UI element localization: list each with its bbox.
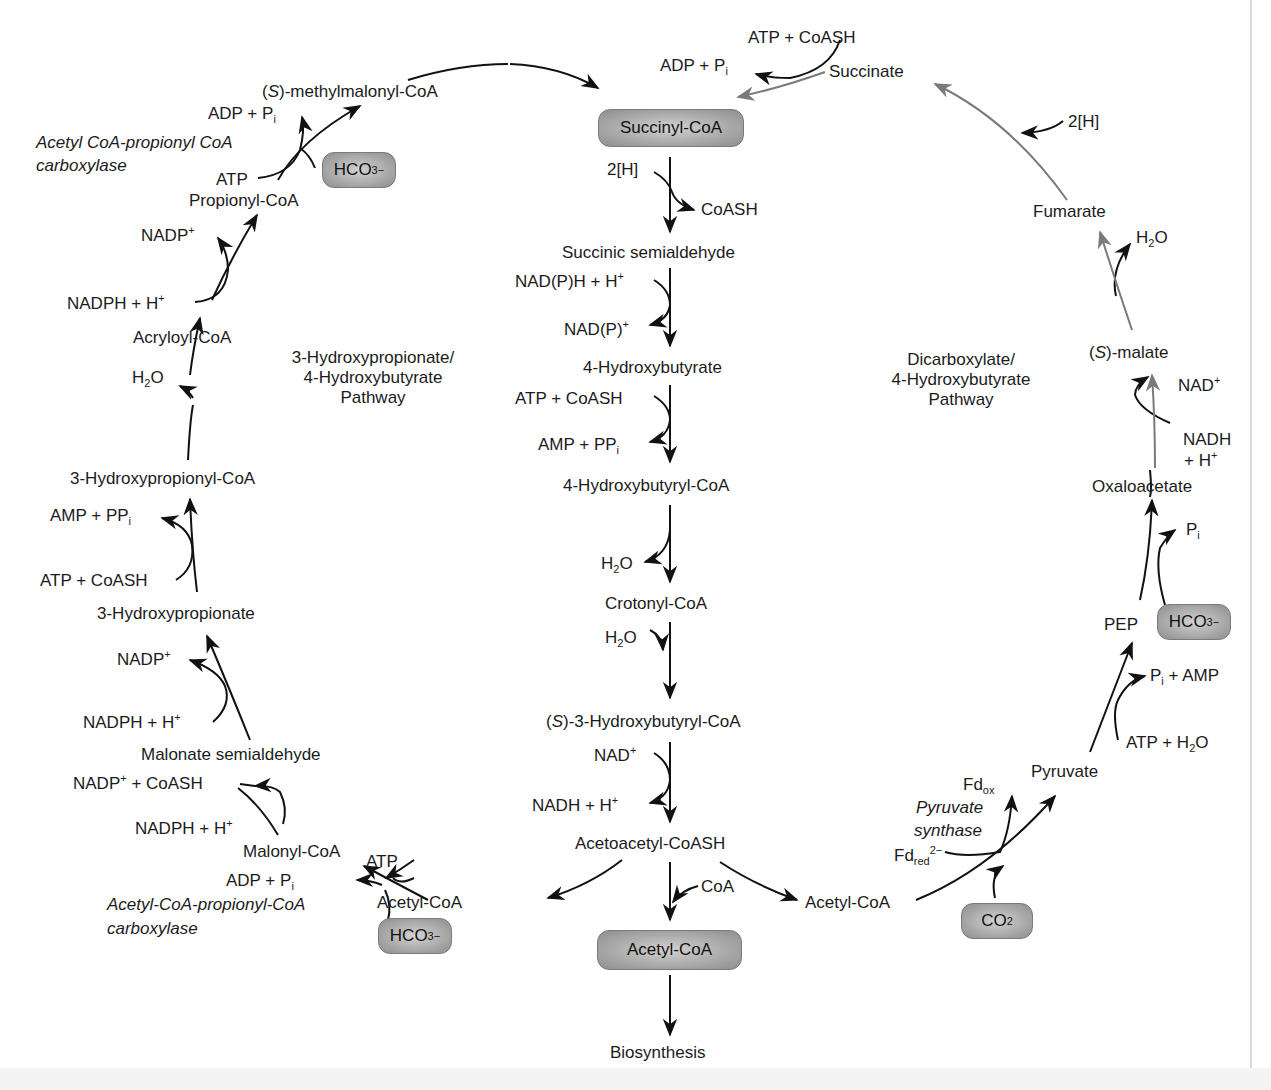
- hydroxypropionyl-coa: 3-Hydroxypropionyl-CoA: [70, 469, 255, 489]
- malonyl-coa: Malonyl-CoA: [243, 842, 340, 862]
- text: NADP: [117, 650, 164, 669]
- text: Fd: [963, 775, 983, 794]
- pyruvate: Pyruvate: [1031, 762, 1098, 782]
- co2-base: CO: [981, 911, 1007, 931]
- coa-in: CoA: [701, 877, 734, 897]
- adp-pi-top-left: ADP + Pi: [208, 104, 276, 124]
- hydroxybutyryl-coa: 4-Hydroxybutyryl-CoA: [563, 476, 729, 496]
- text: NADP: [73, 774, 120, 793]
- text: ADP + P: [226, 871, 291, 890]
- sup: +: [164, 648, 170, 660]
- pathway-title-right: Dicarboxylate/ 4-Hydroxybutyrate Pathway: [836, 350, 1086, 410]
- sup: +: [158, 292, 164, 304]
- text: AMP + PP: [50, 506, 129, 525]
- atp-coash-left: ATP + CoASH: [40, 571, 148, 591]
- tail: O: [1195, 733, 1208, 752]
- text: P: [1186, 520, 1197, 539]
- sup: +: [612, 794, 618, 806]
- acetyl-coa-left: Acetyl-CoA: [377, 893, 462, 913]
- enzyme-bottom-line2: carboxylase: [107, 919, 198, 939]
- sup: 2−: [930, 844, 943, 856]
- title-left-line1: 3-Hydroxypropionate/: [268, 348, 478, 368]
- text: ADP + P: [660, 56, 725, 75]
- adp-pi-bottom-left: ADP + Pi: [226, 871, 294, 891]
- nadp-out-central: NAD(P)+: [564, 320, 629, 340]
- h2o-out-central: H2O: [601, 554, 633, 574]
- s-methylmalonyl-coa: (S)-methylmalonyl-CoA: [262, 82, 438, 102]
- hco3-box-bottom-left: HCO3−: [378, 918, 452, 954]
- propionyl-coa: Propionyl-CoA: [189, 191, 299, 211]
- enzyme-bottom-line1: Acetyl-CoA-propionyl-CoA: [107, 895, 305, 915]
- atp-coash-central: ATP + CoASH: [515, 389, 623, 409]
- nadph-1: NADPH + H+: [67, 294, 165, 314]
- tail: + CoASH: [127, 774, 203, 793]
- title-left-line3: Pathway: [268, 388, 478, 408]
- atp-bottom-left: ATP: [366, 852, 398, 872]
- succinate: Succinate: [829, 62, 904, 82]
- text: + H: [1184, 451, 1211, 470]
- adp-pi-top-right: ADP + Pi: [660, 56, 728, 76]
- oxaloacetate: Oxaloacetate: [1092, 477, 1192, 497]
- hco3-base: HCO: [390, 926, 428, 946]
- title-right-line1: Dicarboxylate/: [836, 350, 1086, 370]
- succinyl-coa-label: Succinyl-CoA: [620, 118, 722, 138]
- text: NAD(P)H + H: [515, 272, 617, 291]
- tail: O: [1154, 228, 1167, 247]
- crotonyl-coa: Crotonyl-CoA: [605, 594, 707, 614]
- pep: PEP: [1104, 615, 1138, 635]
- sup: +: [630, 744, 636, 756]
- sup: +: [623, 318, 629, 330]
- nad-in-central: NAD+: [594, 746, 636, 766]
- text: AMP + PP: [538, 435, 617, 454]
- s-malate: (S)-malate: [1089, 343, 1168, 363]
- tail: + AMP: [1164, 666, 1219, 685]
- sup: +: [174, 711, 180, 723]
- acryloyl-coa: Acryloyl-CoA: [133, 328, 231, 348]
- nad-plus-right: NAD+: [1178, 376, 1220, 396]
- title-left-line2: 4-Hydroxybutyrate: [268, 368, 478, 388]
- nadp-plus-1: NADP+: [141, 226, 195, 246]
- text: -malate: [1112, 343, 1169, 362]
- text: -3-Hydroxybutyryl-CoA: [569, 712, 741, 731]
- text: NADPH + H: [135, 819, 226, 838]
- s3-hydroxybutyryl-coa: (S)-3-Hydroxybutyryl-CoA: [546, 712, 741, 732]
- text: H: [601, 554, 613, 573]
- succinyl-coa-box: Succinyl-CoA: [598, 109, 744, 147]
- co2-box: CO2: [961, 903, 1033, 939]
- tail: O: [623, 628, 636, 647]
- central-coash: CoASH: [701, 200, 758, 220]
- tail: O: [150, 368, 163, 387]
- prefix: S: [1095, 343, 1106, 362]
- h2o-left: H2O: [132, 368, 164, 388]
- sub: i: [129, 515, 131, 527]
- amp-ppi-left: AMP + PPi: [50, 506, 131, 526]
- sub: i: [725, 65, 727, 77]
- title-right-line3: Pathway: [836, 390, 1086, 410]
- prefix: S: [552, 712, 563, 731]
- h2o-in-central: H2O: [605, 628, 637, 648]
- fumarate: Fumarate: [1033, 202, 1106, 222]
- nadh-right-line1: NADH: [1183, 430, 1231, 450]
- sub: i: [1197, 529, 1199, 541]
- tail: O: [619, 554, 632, 573]
- atp-coash-top-right: ATP + CoASH: [748, 28, 856, 48]
- text: -methylmalonyl-CoA: [285, 82, 438, 101]
- nadph-2: NADPH + H+: [83, 713, 181, 733]
- prefix: S: [268, 82, 279, 101]
- enzyme-top-line1: Acetyl CoA-propionyl CoA: [36, 133, 233, 153]
- nadph-in-central: NAD(P)H + H+: [515, 272, 624, 292]
- text: NADPH + H: [83, 713, 174, 732]
- text: Fd: [894, 846, 914, 865]
- acetyl-coa-box-label: Acetyl-CoA: [627, 940, 712, 960]
- sup: +: [188, 224, 194, 236]
- hco3-box-right: HCO3−: [1157, 604, 1231, 640]
- text: NAD(P): [564, 320, 623, 339]
- text: NADH + H: [532, 796, 612, 815]
- text: NAD: [1178, 376, 1214, 395]
- sup: +: [1214, 374, 1220, 386]
- text: H: [132, 368, 144, 387]
- fd-red: Fdred2−: [894, 846, 942, 866]
- acetyl-coa-right: Acetyl-CoA: [805, 893, 890, 913]
- sup: +: [1211, 449, 1217, 461]
- 2h-right: 2[H]: [1068, 112, 1099, 132]
